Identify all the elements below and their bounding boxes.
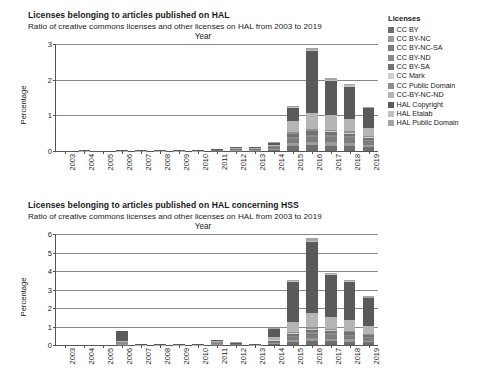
bar-2015[interactable] (287, 106, 299, 151)
x-axis-tick-mark (274, 151, 275, 154)
x-axis-tick-mark (369, 345, 370, 348)
x-axis-tick-mark (103, 345, 104, 348)
legend-swatch-icon (388, 111, 394, 117)
x-axis-tick-label: 2015 (296, 154, 305, 170)
chart-2-subtitle: Ratio of creative commons licenses and o… (28, 211, 477, 222)
bar-2019[interactable] (363, 296, 375, 345)
y-axis-tick-label: 0 (48, 147, 52, 156)
legend-item[interactable]: CC BY-NC-SA (388, 44, 477, 53)
y-axis-tick-label: 5 (48, 248, 52, 257)
bar-2017[interactable] (325, 78, 337, 151)
x-axis-tick-mark (293, 151, 294, 154)
legend-item-label: HAL Etalab (397, 110, 433, 118)
bar-2018[interactable] (344, 84, 356, 151)
bar-2014[interactable] (268, 328, 280, 345)
bar-2018[interactable] (344, 280, 356, 345)
y-axis-tick-label: 3 (48, 285, 52, 294)
bar-segment (363, 298, 375, 326)
bar-2017[interactable] (325, 273, 337, 345)
x-axis-tick-label: 2011 (220, 348, 229, 364)
bar-2006[interactable] (116, 331, 128, 345)
legend-item-label: CC-BY-NC-ND (397, 91, 444, 99)
bar-segment (363, 128, 375, 137)
x-axis-tick-label: 2016 (315, 348, 324, 364)
legend-swatch-icon (388, 36, 394, 42)
legend-item[interactable]: HAL Etalab (388, 110, 477, 119)
x-axis-tick-mark (217, 151, 218, 154)
chart-1-plot-area: 0123 20032004200520062007200820092010201… (55, 44, 378, 152)
x-axis-tick-label: 2009 (182, 348, 191, 364)
legend-item[interactable]: CC Mark (388, 72, 477, 81)
chart-1-plot-wrap: Year Percentage 0123 2003200420052006200… (28, 32, 378, 177)
chart-2-title: Licenses belonging to articles published… (28, 200, 477, 211)
legend-swatch-icon (388, 120, 394, 126)
chart-2-bars (56, 234, 378, 345)
bar-segment (325, 275, 337, 317)
bar-segment (306, 113, 318, 129)
bar-2014[interactable] (268, 142, 280, 151)
x-axis-tick-mark (103, 151, 104, 154)
x-axis-tick-label: 2007 (144, 348, 153, 364)
bar-segment (287, 322, 299, 332)
chart-2-plot-area: 0123456 20032004200520062007200820092010… (55, 234, 378, 346)
legend-item-label: CC BY (397, 26, 419, 34)
x-axis-tick-label: 2004 (87, 348, 96, 364)
bar-2016[interactable] (306, 48, 318, 151)
x-axis-tick-label: 2009 (182, 154, 191, 170)
y-axis-tick-label: 2 (48, 75, 52, 84)
chart-1-yaxis-title: Percentage (19, 85, 28, 124)
legend-item[interactable]: CC BY-ND (388, 53, 477, 62)
x-axis-tick-label: 2010 (201, 154, 210, 170)
x-axis-tick-label: 2007 (144, 154, 153, 170)
x-axis-tick-label: 2003 (68, 154, 77, 170)
legend-item[interactable]: HAL Public Domain (388, 119, 477, 128)
x-axis-tick-mark (65, 345, 66, 348)
legend-item-label: HAL Public Domain (397, 119, 459, 127)
y-axis-tick-label: 3 (48, 40, 52, 49)
x-axis-tick-label: 2013 (258, 348, 267, 364)
bar-2015[interactable] (287, 280, 299, 345)
legend-swatch-icon (388, 45, 394, 51)
x-axis-tick-mark (331, 345, 332, 348)
legend-item[interactable]: CC BY-SA (388, 63, 477, 72)
x-axis-tick-label: 2010 (201, 348, 210, 364)
x-axis-tick-mark (331, 151, 332, 154)
legend-item[interactable]: HAL Copyright (388, 100, 477, 109)
bar-2016[interactable] (306, 238, 318, 345)
legend-swatch-icon (388, 73, 394, 79)
legend-item[interactable]: CC BY (388, 25, 477, 34)
bar-segment (287, 108, 299, 122)
legend-item[interactable]: CC BY-NC (388, 34, 477, 43)
x-axis-tick-label: 2008 (163, 154, 172, 170)
x-axis-tick-label: 2004 (87, 154, 96, 170)
legend-swatch-icon (388, 92, 394, 98)
y-axis-tick-label: 1 (48, 322, 52, 331)
x-axis-tick-label: 2012 (239, 348, 248, 364)
x-axis-tick-mark (293, 345, 294, 348)
x-axis-tick-label: 2005 (106, 348, 115, 364)
legend-item-label: CC Mark (397, 72, 425, 80)
chart-block-hss: Licenses belonging to articles published… (0, 200, 477, 372)
x-axis-tick-mark (84, 151, 85, 154)
legend-swatch-icon (388, 27, 394, 33)
legend-item[interactable]: CC-BY-NC-ND (388, 91, 477, 100)
x-axis-tick-label: 2018 (353, 154, 362, 170)
legend-swatch-icon (388, 64, 394, 70)
x-axis-tick-mark (122, 345, 123, 348)
chart-2-yaxis-title: Percentage (19, 278, 28, 317)
x-axis-tick-mark (122, 151, 123, 154)
bar-2019[interactable] (363, 107, 375, 151)
legend-items: CC BYCC BY-NCCC BY-NC-SACC BY-NDCC BY-SA… (388, 25, 477, 128)
legend-item[interactable]: CC Public Domain (388, 81, 477, 90)
y-axis-tick-label: 6 (48, 230, 52, 239)
legend-item-label: CC BY-NC (397, 35, 431, 43)
figure-page: Licenses belonging to articles published… (0, 0, 477, 390)
bar-segment (116, 331, 128, 341)
legend-item-label: CC BY-SA (397, 63, 430, 71)
x-axis-tick-label: 2006 (125, 348, 134, 364)
chart-1-bars (56, 44, 378, 151)
x-axis-tick-label: 2008 (163, 348, 172, 364)
bar-segment (325, 115, 337, 129)
x-axis-tick-label: 2017 (334, 154, 343, 170)
bar-segment (287, 282, 299, 322)
